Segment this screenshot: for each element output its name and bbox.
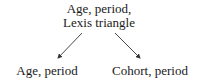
arrow-top-to-left: [58, 33, 82, 58]
node-cohort-period: Cohort, period: [104, 64, 196, 78]
node-age-period: Age, period: [7, 64, 87, 78]
node-right-label: Cohort, period: [112, 63, 188, 78]
node-left-label: Age, period: [16, 63, 77, 78]
node-top-line1: Age, period,: [49, 2, 149, 16]
node-age-period-lexis-triangle: Age, period, Lexis triangle: [49, 2, 149, 30]
node-top-line2: Lexis triangle: [49, 16, 149, 30]
arrow-top-to-right: [115, 33, 140, 58]
